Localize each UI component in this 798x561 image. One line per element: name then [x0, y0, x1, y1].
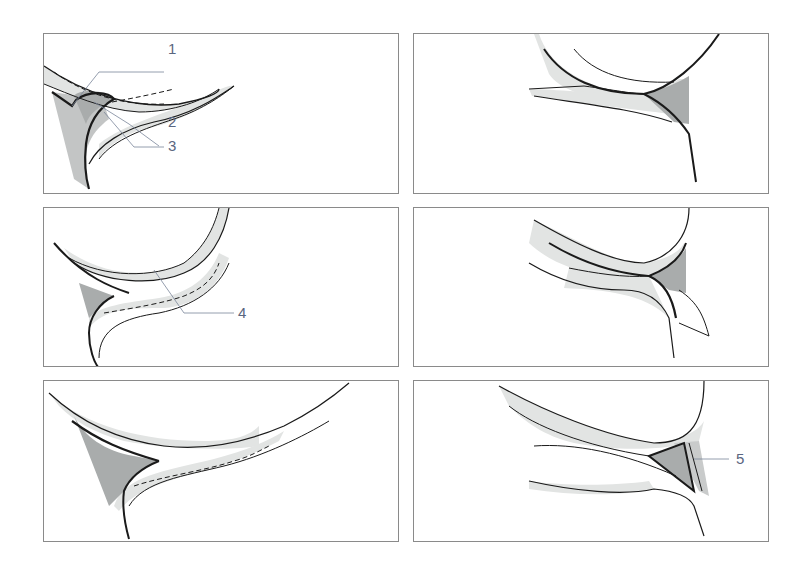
panel-6-drawing [414, 381, 768, 541]
panel-5 [43, 380, 399, 542]
panel-5-drawing [44, 381, 398, 541]
panel-4-drawing [414, 208, 768, 366]
callout-label-5: 5 [736, 451, 744, 466]
panel-3-drawing [44, 208, 398, 366]
callout-label-1: 1 [168, 41, 176, 56]
panel-6: 5 [413, 380, 769, 542]
panel-1-drawing [44, 34, 398, 193]
panel-1: 1 2 3 [43, 33, 399, 194]
callout-label-3: 3 [168, 138, 176, 153]
panel-4 [413, 207, 769, 367]
panel-2 [413, 33, 769, 194]
callout-label-4: 4 [238, 305, 246, 320]
panel-2-drawing [414, 34, 768, 193]
panel-3: 4 [43, 207, 399, 367]
callout-label-2: 2 [168, 114, 176, 129]
